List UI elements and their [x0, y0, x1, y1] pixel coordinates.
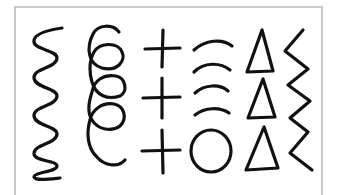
loops-icon	[88, 26, 125, 165]
arcs-icon	[194, 41, 232, 115]
stroke-patterns-drawing	[0, 0, 339, 195]
plus-signs-icon	[142, 30, 180, 173]
triangles-icon	[246, 30, 278, 170]
zigzag-icon	[285, 30, 312, 170]
circle-icon	[191, 130, 231, 172]
drawing-canvas	[0, 0, 339, 195]
wavy-line-icon	[34, 28, 62, 179]
